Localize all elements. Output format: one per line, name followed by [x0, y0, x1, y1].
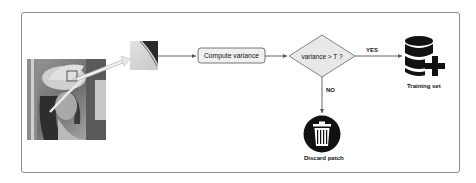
no-edge-label: NO [326, 87, 335, 93]
trash-icon [304, 116, 341, 153]
image-patch [130, 41, 158, 70]
process-label: Compute variance [198, 48, 265, 63]
training-set-label: Training set [407, 83, 441, 89]
yes-edge-label: YES [366, 47, 378, 53]
diagram-canvas [0, 0, 476, 183]
database-plus-icon [405, 36, 445, 76]
discard-patch-label: Discard patch [304, 155, 344, 161]
decision-label: variance > T ? [289, 49, 355, 63]
